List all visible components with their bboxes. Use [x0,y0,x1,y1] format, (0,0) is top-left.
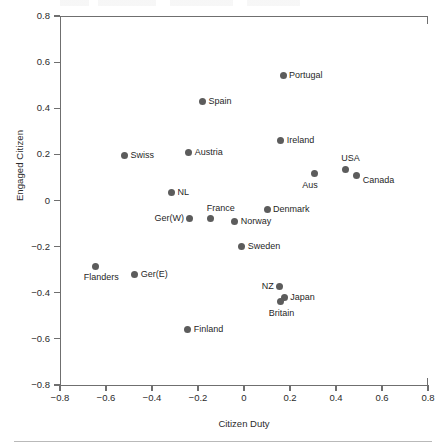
scatter-chart: 0.80.60.40.20−0.2−0.4−0.6−0.8 −0.8−0.6−0… [0,0,446,448]
data-point-label: Spain [209,96,232,106]
clipped-caption-artifact [60,0,300,6]
x-tick-mark [197,385,198,391]
y-tick-mark [54,154,60,155]
x-tick-mark [335,385,336,391]
y-tick-mark [54,200,60,201]
data-point[interactable] [131,271,138,278]
plot-area [60,16,428,385]
y-tick-mark [54,292,60,293]
x-tick-label: 0.6 [359,392,405,403]
plot-frame-top-right-tick [427,16,428,24]
data-point-label: Ireland [287,135,315,145]
x-tick-label: −0.6 [83,392,129,403]
data-point-label: Finland [194,324,224,334]
data-point[interactable] [92,263,99,270]
y-tick-mark [54,338,60,339]
x-tick-mark [105,385,106,391]
y-tick-label: 0.8 [8,11,50,21]
data-point-label: Ger(E) [141,269,168,279]
data-point-label: Sweden [248,241,281,251]
x-tick-mark [381,385,382,391]
y-axis-title: Engaged Citizen [14,111,25,221]
data-point-label: NL [178,187,190,197]
y-tick-label: −0.2 [8,242,50,252]
data-point-label: Flanders [84,272,119,282]
data-point[interactable] [264,206,271,213]
x-tick-mark [427,385,428,391]
y-tick-label: −0.4 [8,288,50,298]
x-tick-mark [243,385,244,391]
y-tick-mark [54,108,60,109]
x-tick-label: −0.4 [129,392,175,403]
x-tick-label: −0.8 [37,392,83,403]
x-tick-mark [151,385,152,391]
data-point-label: Japan [290,292,315,302]
data-point-label: Canada [363,175,395,185]
y-tick-label: 0.6 [8,57,50,67]
data-point-label: Denmark [273,204,310,214]
data-point[interactable] [353,172,360,179]
data-point[interactable] [342,166,349,173]
x-tick-label: 0.2 [267,392,313,403]
y-tick-mark [54,62,60,63]
data-point-label: Norway [241,216,272,226]
data-point-label: Britain [269,308,295,318]
data-point-label: France [207,203,235,213]
x-tick-label: 0.4 [313,392,359,403]
data-point[interactable] [121,152,128,159]
x-tick-label: 0 [221,392,267,403]
y-tick-label: −0.8 [8,380,50,390]
data-point[interactable] [199,98,206,105]
x-tick-mark [289,385,290,391]
x-tick-label: 0.8 [405,392,446,403]
data-point-label: NZ [262,281,274,291]
x-axis-title: Citizen Duty [60,418,428,429]
y-tick-mark [54,15,60,16]
data-point-label: Portugal [289,70,323,80]
data-point-label: USA [341,153,360,163]
data-point-label: Ger(W) [154,213,184,223]
x-tick-mark [59,385,60,391]
x-tick-label: −0.2 [175,392,221,403]
footer-divider [14,441,432,442]
data-point-label: Aus [302,180,318,190]
data-point-label: Swiss [130,150,154,160]
y-tick-label: −0.6 [8,334,50,344]
data-point-label: Austria [195,147,223,157]
data-point[interactable] [185,149,192,156]
data-point[interactable] [168,189,175,196]
y-tick-mark [54,246,60,247]
